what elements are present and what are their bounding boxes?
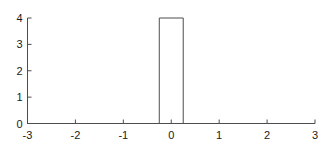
x-axis-tick-label: 0 xyxy=(168,130,174,141)
y-axis-tick-label: 4 xyxy=(16,13,22,24)
x-axis-tick-label: -3 xyxy=(23,130,33,141)
x-axis-tick-label: -1 xyxy=(118,130,128,141)
chart-figure: 01234 -3-2-10123 xyxy=(0,0,326,149)
pulse-trace xyxy=(28,18,316,124)
y-axis-tick-label: 1 xyxy=(16,92,22,103)
x-axis-tick-label: -2 xyxy=(71,130,81,141)
y-axis-tick-label: 2 xyxy=(16,65,22,76)
x-axis-ticks xyxy=(28,120,316,124)
x-axis-tick-label: 1 xyxy=(216,130,222,141)
y-axis-ticks xyxy=(28,18,32,124)
y-axis-tick-label: 0 xyxy=(16,118,22,129)
axis-spines xyxy=(27,18,315,124)
x-axis-tick-label: 2 xyxy=(264,130,270,141)
rectangular-pulse-plot xyxy=(0,0,326,149)
y-axis-tick-label: 3 xyxy=(16,39,22,50)
x-axis-tick-label: 3 xyxy=(312,130,318,141)
